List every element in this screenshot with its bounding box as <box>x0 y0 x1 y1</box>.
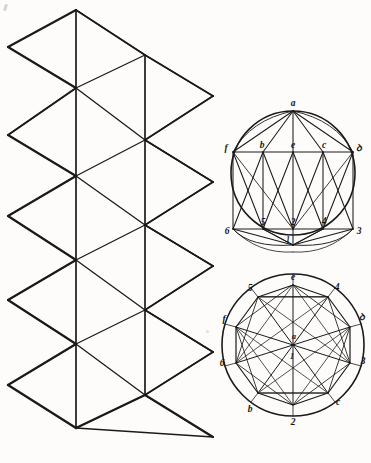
engraving-plate: a f b e c ꝺ 6 5 2 4 3 1 <box>0 0 371 463</box>
lower-label-5: 5 <box>248 283 253 293</box>
lower-rim-tick <box>328 393 335 402</box>
lower-spoke <box>293 345 328 393</box>
lower-circle-figure: e 5 4 f ꝺ 6 3 b c 2 a 1 <box>0 0 371 463</box>
lower-label-2: 2 <box>290 417 296 427</box>
lower-label-b: b <box>248 404 253 414</box>
lower-label-centre-1: 1 <box>290 352 294 361</box>
lower-rim-tick <box>350 324 361 327</box>
lower-rim-tick <box>225 363 236 366</box>
lower-label-6: 6 <box>220 358 225 368</box>
lower-rim-tick <box>225 324 236 327</box>
lower-label-3: 3 <box>360 356 366 366</box>
lower-spoke <box>258 297 293 345</box>
lower-spoke <box>293 297 328 345</box>
lower-rim-tick <box>251 393 258 402</box>
lower-label-4: 4 <box>334 282 340 292</box>
lower-spoke <box>258 345 293 393</box>
lower-label-centre-a: a <box>292 332 296 341</box>
lower-label-d: ꝺ <box>359 312 366 322</box>
lower-rim-tick <box>350 363 361 366</box>
